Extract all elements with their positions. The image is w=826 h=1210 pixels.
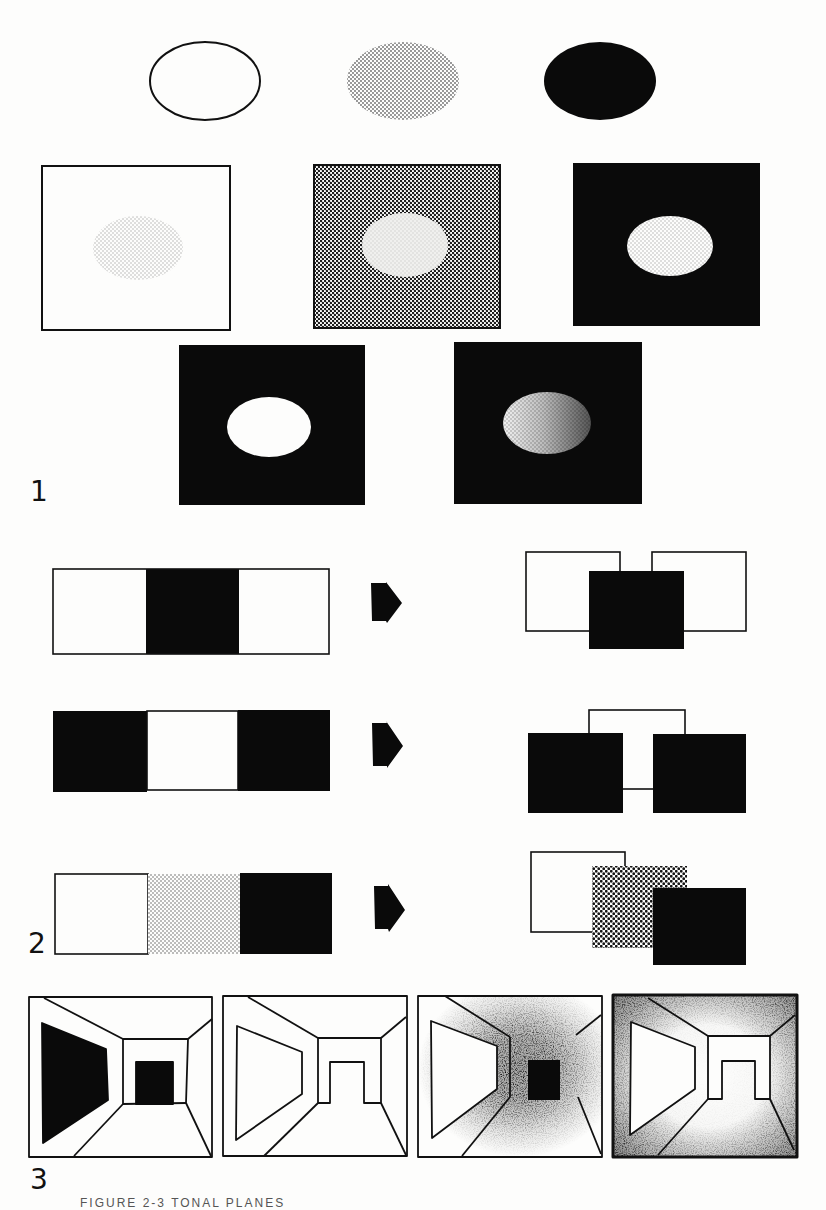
black-field-grey-ellipse-panel <box>573 163 760 326</box>
right-arrow-icon <box>374 884 405 932</box>
section-label-1: 1 <box>30 478 48 506</box>
grey-field-light-ellipse-panel <box>314 165 500 328</box>
section-1-panels <box>42 163 760 505</box>
corridor-dark-edges <box>613 995 797 1157</box>
section-label-2: 2 <box>28 930 46 958</box>
result-black-over-two-white <box>526 552 746 649</box>
white-field-grey-ellipse-panel <box>42 166 230 330</box>
result-stepped-planes <box>531 852 746 965</box>
right-arrow-icon <box>372 721 403 768</box>
corridor-line-only <box>223 996 407 1156</box>
strip-white-grey-black <box>55 873 332 954</box>
black-field-white-ellipse-panel <box>179 345 365 505</box>
corridor-black-accents <box>29 997 212 1157</box>
section-3 <box>29 995 797 1157</box>
section-label-3: 3 <box>30 1166 48 1194</box>
outline-ellipse <box>150 42 260 120</box>
section-1-ellipse-row <box>150 42 656 120</box>
stippled-ellipse <box>347 42 459 120</box>
corridor-dark-center <box>418 996 602 1157</box>
strip-white-black-white <box>53 569 329 654</box>
figure-caption: FIGURE 2-3 TONAL PLANES <box>80 1196 285 1210</box>
section-2 <box>53 552 746 965</box>
black-field-gradient-ellipse-panel <box>454 342 642 504</box>
right-arrow-icon <box>371 582 402 623</box>
result-two-black-over-white <box>528 710 746 813</box>
black-ellipse <box>544 42 656 120</box>
strip-black-white-black <box>53 710 330 792</box>
